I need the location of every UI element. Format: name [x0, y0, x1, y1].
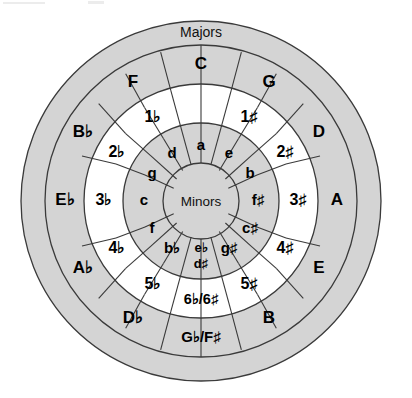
- circle-of-fifths-svg: Majors C G D A E B G♭/F♯ D♭ A♭ E♭ B♭ F 1…: [0, 0, 412, 398]
- minor-segment-g[interactable]: g: [147, 164, 156, 181]
- majors-band-label: Majors: [180, 24, 222, 40]
- major-segment-b[interactable]: B: [263, 308, 275, 327]
- major-segment-a[interactable]: A: [331, 190, 343, 209]
- major-segment-bb[interactable]: B♭: [73, 122, 93, 141]
- count-segment-2-flat[interactable]: 2♭: [109, 143, 126, 160]
- count-segment-5-sharp[interactable]: 5♯: [241, 275, 258, 292]
- minor-segment-d[interactable]: d: [167, 144, 176, 161]
- minors-center-label: Minors: [181, 194, 222, 209]
- major-segment-c[interactable]: C: [195, 54, 207, 73]
- major-segment-db[interactable]: D♭: [123, 308, 143, 327]
- minor-segment-a[interactable]: a: [197, 136, 206, 153]
- count-segment-5-flat[interactable]: 5♭: [145, 275, 162, 292]
- minor-segment-b-flat[interactable]: b♭: [164, 239, 180, 256]
- count-segment-2-sharp[interactable]: 2♯: [277, 143, 294, 160]
- major-segment-ab[interactable]: A♭: [73, 258, 93, 277]
- count-segment-3-sharp[interactable]: 3♯: [290, 191, 307, 208]
- major-segment-eb[interactable]: E♭: [55, 190, 74, 209]
- count-segment-3-flat[interactable]: 3♭: [96, 191, 113, 208]
- major-segment-gb-fs[interactable]: G♭/F♯: [181, 328, 221, 345]
- major-segment-g[interactable]: G: [262, 72, 275, 91]
- count-segment-1-flat[interactable]: 1♭: [145, 108, 162, 125]
- circle-of-fifths-diagram: Majors C G D A E B G♭/F♯ D♭ A♭ E♭ B♭ F 1…: [0, 0, 412, 398]
- minor-segment-g-sharp[interactable]: g♯: [221, 239, 238, 256]
- minor-segment-d-sharp[interactable]: d♯: [194, 256, 208, 271]
- minor-segment-b[interactable]: b: [245, 164, 254, 181]
- minor-segment-f-sharp[interactable]: f♯: [252, 191, 265, 208]
- major-segment-f[interactable]: F: [128, 72, 138, 91]
- minor-segment-e-flat[interactable]: e♭: [194, 240, 207, 255]
- minor-segment-e[interactable]: e: [225, 144, 233, 161]
- count-segment-4-sharp[interactable]: 4♯: [277, 239, 294, 256]
- major-segment-e[interactable]: E: [313, 258, 324, 277]
- count-segment-1-sharp[interactable]: 1♯: [241, 108, 258, 125]
- major-segment-d[interactable]: D: [313, 122, 325, 141]
- minor-segment-c-sharp[interactable]: c♯: [242, 219, 258, 236]
- count-segment-6-flat-6-sharp[interactable]: 6♭/6♯: [184, 291, 219, 307]
- count-segment-4-flat[interactable]: 4♭: [109, 239, 126, 256]
- minor-segment-c[interactable]: c: [140, 191, 148, 208]
